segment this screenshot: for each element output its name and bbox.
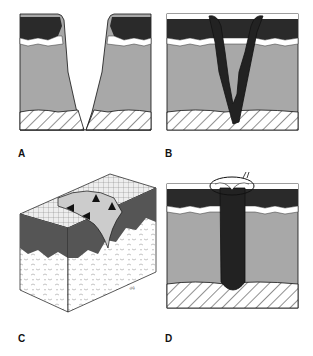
panel-label-a: A <box>18 148 25 159</box>
panel-label-b: B <box>165 148 172 159</box>
panel-c: sig <box>18 172 158 314</box>
skin-block-3d: sig <box>18 172 158 314</box>
suture-knot-icon <box>243 172 249 178</box>
panel-a <box>18 12 153 140</box>
panel-label-c: C <box>18 333 25 344</box>
wound-cross-section-clot <box>165 12 300 140</box>
panel-label-d: D <box>165 333 172 344</box>
wound-cross-section-open <box>18 12 153 140</box>
panel-b <box>165 12 300 140</box>
artist-signature: sig <box>129 284 136 291</box>
panel-d <box>165 172 300 312</box>
sutured-wound-cross-section <box>165 172 300 312</box>
